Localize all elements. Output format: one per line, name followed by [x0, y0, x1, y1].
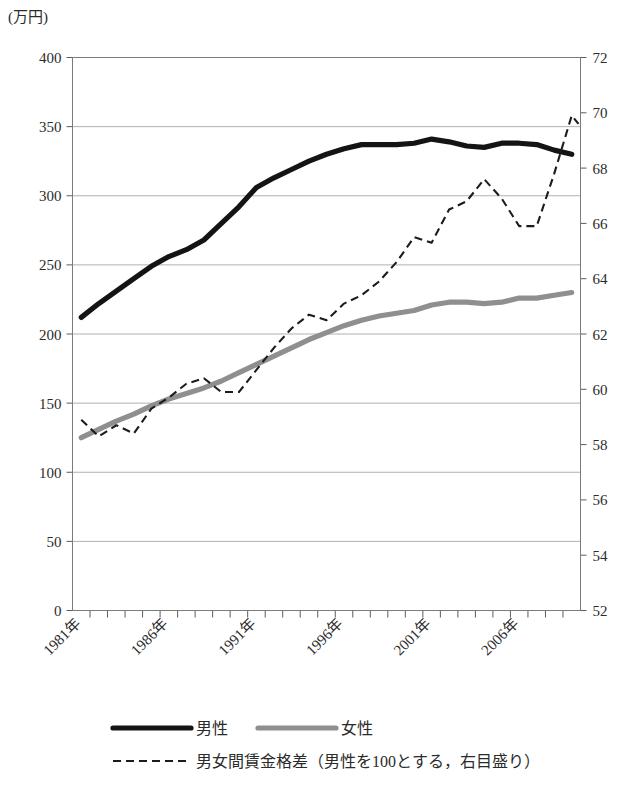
- left-tick-label: 200: [39, 327, 62, 343]
- left-tick-label: 50: [47, 534, 62, 550]
- legend-label: 女性: [341, 719, 373, 737]
- right-tick-label: 66: [593, 216, 609, 232]
- right-tick-label: 68: [593, 161, 608, 177]
- legend-label: 男女間賃金格差（男性を100とする，右目盛り）: [196, 752, 540, 770]
- wage-gap-chart: (万円) 050100150200250300350400 5254565860…: [0, 0, 639, 789]
- left-tick-label: 250: [39, 257, 62, 273]
- left-tick-label: 150: [39, 396, 62, 412]
- right-tick-label: 56: [593, 492, 609, 508]
- left-tick-label: 100: [39, 465, 62, 481]
- right-tick-label: 70: [593, 105, 608, 121]
- chart-background: [0, 0, 639, 789]
- legend-label: 男性: [196, 720, 228, 737]
- left-tick-label: 350: [39, 119, 62, 135]
- y-axis-unit-label: (万円): [8, 9, 48, 26]
- left-tick-label: 400: [39, 50, 62, 66]
- left-tick-label: 300: [39, 188, 62, 204]
- right-tick-label: 64: [593, 271, 609, 287]
- right-tick-label: 52: [593, 603, 608, 619]
- right-tick-label: 54: [593, 548, 609, 564]
- right-tick-label: 58: [593, 437, 608, 453]
- right-tick-label: 72: [593, 50, 608, 66]
- left-tick-label: 0: [54, 603, 62, 619]
- right-tick-label: 62: [593, 327, 608, 343]
- right-tick-label: 60: [593, 382, 608, 398]
